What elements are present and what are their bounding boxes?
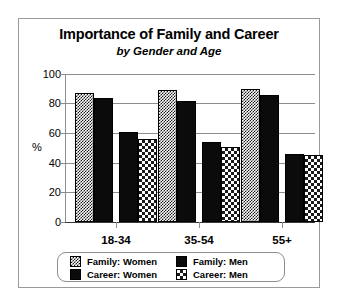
- legend-swatch-career-women-icon: [70, 269, 81, 280]
- y-tick-label-60: 60: [27, 128, 61, 139]
- bar-55plus-family-men[interactable]: [260, 95, 279, 222]
- legend-swatch-family-women-icon: [70, 256, 81, 267]
- bar-18-34-career-women[interactable]: [119, 132, 138, 222]
- chart-legend: Family: Women Career: Women Family: Men …: [57, 252, 285, 282]
- x-tick-mark-3: [282, 222, 283, 228]
- chart-title: Importance of Family and Career: [18, 26, 320, 43]
- legend-label-career-women: Career: Women: [87, 269, 157, 280]
- bar-55plus-family-women[interactable]: [241, 89, 260, 222]
- bar-35-54-family-men[interactable]: [177, 101, 196, 222]
- gridline-100: [65, 74, 315, 75]
- bar-55plus-career-women[interactable]: [285, 154, 304, 222]
- y-tick-label-0: 0: [27, 217, 61, 228]
- x-axis-label-18-34: 18-34: [71, 234, 161, 246]
- plot-area: [65, 74, 315, 222]
- x-tick-mark-2: [199, 222, 200, 228]
- x-axis-line: [65, 222, 315, 223]
- legend-label-family-men: Family: Men: [193, 256, 248, 267]
- bar-18-34-career-men[interactable]: [138, 139, 157, 222]
- y-tick-label-20: 20: [27, 187, 61, 198]
- legend-label-career-men: Career: Men: [193, 269, 248, 280]
- chart-figure: Importance of Family and Career by Gende…: [0, 0, 339, 307]
- bar-18-34-family-women[interactable]: [75, 93, 94, 222]
- bar-18-34-family-men[interactable]: [94, 98, 113, 222]
- title-block: Importance of Family and Career by Gende…: [18, 26, 320, 59]
- y-tick-label-80: 80: [27, 98, 61, 109]
- bar-55plus-career-men[interactable]: [304, 155, 323, 222]
- x-axis-label-35-54: 35-54: [154, 234, 244, 246]
- legend-swatch-career-men-icon: [176, 269, 187, 280]
- x-axis-label-55plus: 55+: [237, 234, 327, 246]
- chart-subtitle: by Gender and Age: [18, 44, 320, 59]
- legend-label-family-women: Family: Women: [87, 256, 157, 267]
- bar-35-54-career-women[interactable]: [202, 142, 221, 222]
- y-tick-label-100: 100: [27, 69, 61, 80]
- bar-35-54-family-women[interactable]: [158, 90, 177, 222]
- y-tick-label-40: 40: [27, 158, 61, 169]
- x-tick-mark-1: [116, 222, 117, 228]
- bar-35-54-career-men[interactable]: [221, 147, 240, 222]
- y-axis-tick-labels: 100 80 60 40 20 0: [18, 0, 61, 307]
- legend-swatch-family-men-icon: [176, 256, 187, 267]
